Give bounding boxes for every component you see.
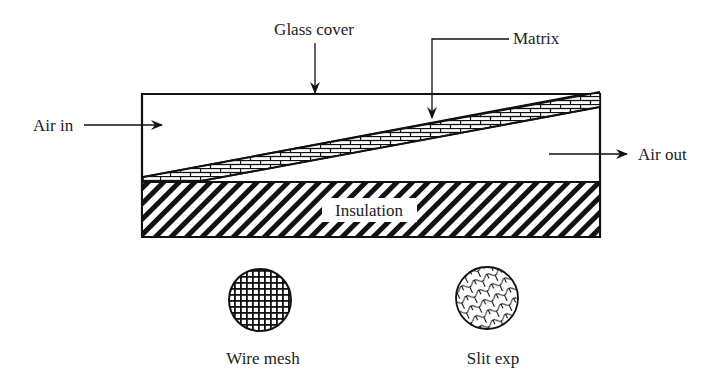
collector-body: Insulation: [141, 91, 601, 237]
air-out-label: Air out: [638, 145, 687, 164]
matrix-leader-arrow: [432, 39, 509, 118]
wire-mesh-label: Wire mesh: [226, 349, 300, 368]
air-in-label: Air in: [33, 116, 74, 135]
glass-cover-label: Glass cover: [274, 20, 354, 39]
slit-exp-label: Slit exp: [467, 349, 519, 368]
matrix-label: Matrix: [513, 29, 560, 48]
slit-exp-circle: [456, 267, 518, 329]
insulation-label: Insulation: [335, 201, 403, 220]
slit-exp-sample: Slit exp: [456, 267, 519, 368]
wire-mesh-circle: [229, 269, 291, 331]
solar-air-heater-diagram: Insulation Glass cover Matrix Air in Air…: [0, 0, 728, 390]
wire-mesh-sample: Wire mesh: [226, 269, 300, 368]
